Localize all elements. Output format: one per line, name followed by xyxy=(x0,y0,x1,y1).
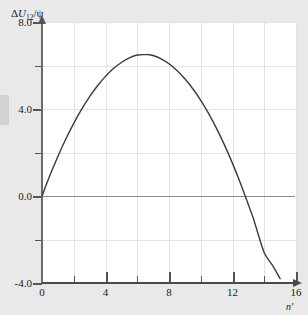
x-axis-tick-label: 4 xyxy=(96,287,116,298)
y-axis-tick-label: -4.0 xyxy=(0,278,32,289)
x-axis-tick-label: 16 xyxy=(286,287,306,298)
y-axis-tick-label: 4.0 xyxy=(0,104,32,115)
chart-figure: ΔU12/ψ n' 8.04.00.0-4.00481216 xyxy=(0,0,308,315)
y-axis-tick-label: 0.0 xyxy=(0,191,32,202)
x-axis-tick-label: 0 xyxy=(32,287,52,298)
x-axis-tick-label: 12 xyxy=(223,287,243,298)
series-curve-line xyxy=(42,55,280,279)
y-axis-tick-label: 8.0 xyxy=(0,17,32,28)
series-curve-container xyxy=(0,0,308,315)
x-axis-tick-label: 8 xyxy=(159,287,179,298)
